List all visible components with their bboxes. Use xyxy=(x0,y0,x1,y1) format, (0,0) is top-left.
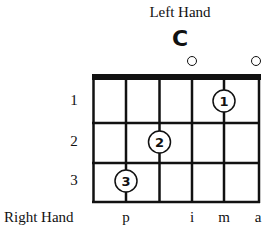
svg-text:3: 3 xyxy=(121,174,130,189)
fret-label-3: 3 xyxy=(64,172,84,189)
right-hand-finger-m: m xyxy=(214,209,234,226)
nut xyxy=(92,74,261,80)
right-hand-finger-i: i xyxy=(182,209,202,226)
chord-grid: 1 2 3 xyxy=(0,0,275,239)
svg-text:1: 1 xyxy=(219,94,228,109)
finger-3: 3 xyxy=(115,170,137,192)
fret-label-2: 2 xyxy=(64,133,84,150)
open-string-marker-icon xyxy=(252,57,261,66)
svg-text:2: 2 xyxy=(155,135,164,150)
frets xyxy=(92,123,260,202)
finger-1: 1 xyxy=(213,90,235,112)
right-hand-finger-a: a xyxy=(248,209,268,226)
finger-2: 2 xyxy=(149,131,171,153)
open-string-marker-icon xyxy=(188,57,197,66)
right-hand-finger-p: p xyxy=(116,209,136,226)
fret-label-1: 1 xyxy=(64,92,84,109)
right-hand-label: Right Hand xyxy=(4,209,74,226)
